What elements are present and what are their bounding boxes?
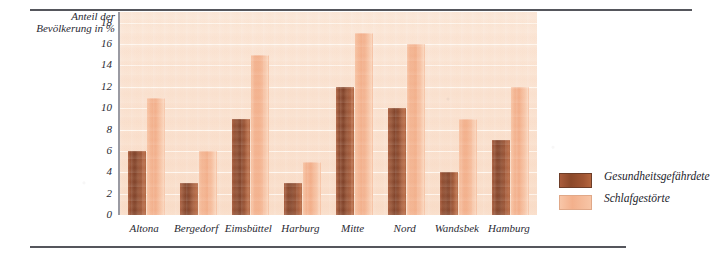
y-tick-label: 18 [72,16,112,28]
bar-mitte-schlafgestoerte [355,33,373,215]
bar-mitte-gesundheitsgefaehrdete [336,87,354,215]
plot-inner [120,12,537,215]
y-tick-label: 4 [72,165,112,177]
bar-nord-gesundheitsgefaehrdete [388,108,406,215]
bar-bergedorf-schlafgestoerte [199,151,217,215]
bar-hamburg-gesundheitsgefaehrdete [492,140,510,215]
y-tick-label: 14 [72,58,112,70]
plot-area [118,12,537,215]
bar-hamburg-schlafgestoerte [511,87,529,215]
bar-harburg-gesundheitsgefaehrdete [284,183,302,215]
x-tick-label-wandsbek: Wandsbek [435,222,479,234]
bottom-divider-rule [30,246,626,248]
bar-altona-schlafgestoerte [147,98,165,216]
y-tick-label: 8 [72,123,112,135]
gridline [120,87,537,88]
gridline [120,65,537,66]
bar-wandsbek-gesundheitsgefaehrdete [440,172,458,215]
x-tick-label-bergedorf: Bergedorf [174,222,218,234]
y-tick-label: 16 [72,37,112,49]
bar-nord-schlafgestoerte [407,44,425,215]
gridline [120,44,537,45]
gridline [120,108,537,109]
bar-harburg-schlafgestoerte [303,162,321,215]
x-tick-label-eimsbüttel: Eimsbüttel [225,222,272,234]
legend-swatch-dark [559,173,592,188]
x-tick-label-nord: Nord [394,222,416,234]
bar-eimsbüttel-schlafgestoerte [251,55,269,215]
x-tick-label-mitte: Mitte [341,222,364,234]
legend-label: Gesundheitsgefährdete [604,170,710,182]
y-tick-label: 2 [72,187,112,199]
x-tick-label-altona: Altona [129,222,158,234]
bar-eimsbüttel-gesundheitsgefaehrdete [232,119,250,215]
bar-altona-gesundheitsgefaehrdete [128,151,146,215]
legend-swatch-light [559,195,592,210]
top-divider-rule [30,9,692,11]
bar-bergedorf-gesundheitsgefaehrdete [180,183,198,215]
x-tick-label-hamburg: Hamburg [488,222,530,234]
legend-label: Schlafgestörte [604,192,670,204]
y-tick-label: 6 [72,144,112,156]
x-tick-label-harburg: Harburg [281,222,319,234]
y-tick-label: 0 [72,208,112,220]
y-tick-label: 10 [72,101,112,113]
gridline [120,23,537,24]
bar-wandsbek-schlafgestoerte [459,119,477,215]
y-tick-label: 12 [72,80,112,92]
